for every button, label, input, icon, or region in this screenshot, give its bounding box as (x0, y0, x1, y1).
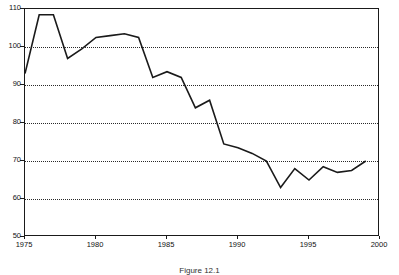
y-tick-label-90: 90 (0, 80, 21, 88)
y-tick-label-60: 60 (0, 194, 21, 202)
y-tick-label-100: 100 (0, 42, 21, 50)
data-series-line (25, 9, 378, 235)
y-tick-label-70: 70 (0, 156, 21, 164)
x-tick-2000 (379, 236, 380, 239)
x-tick-label-1990: 1990 (222, 240, 252, 249)
y-tick-label-110: 110 (0, 4, 21, 12)
y-tick-label-50: 50 (0, 232, 21, 240)
x-tick-label-1975: 1975 (9, 240, 39, 249)
x-tick-1985 (166, 236, 167, 239)
plot-inner (25, 9, 378, 235)
x-tick-1980 (95, 236, 96, 239)
x-tick-label-1995: 1995 (293, 240, 323, 249)
x-tick-1975 (24, 236, 25, 239)
x-tick-label-1980: 1980 (80, 240, 110, 249)
x-tick-label-1985: 1985 (151, 240, 181, 249)
plot-area (24, 8, 379, 236)
x-tick-1995 (308, 236, 309, 239)
x-tick-1990 (237, 236, 238, 239)
figure-caption: Figure 12.1 (0, 266, 399, 275)
y-tick-label-80: 80 (0, 118, 21, 126)
x-tick-label-2000: 2000 (364, 240, 394, 249)
figure-root: 5060708090100110 19751980198519901995200… (0, 0, 399, 275)
